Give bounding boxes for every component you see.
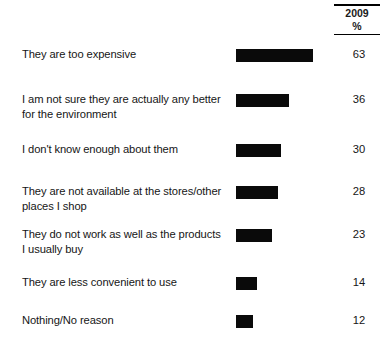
bar-row-value: 28 bbox=[340, 184, 378, 199]
bar-row-label-line1: Nothing/No reason bbox=[22, 313, 227, 328]
bar-track bbox=[236, 49, 340, 62]
table-row: They are not available at the stores/oth… bbox=[0, 184, 392, 227]
bar-row-label-line1: I am not sure they are actually any bett… bbox=[22, 92, 227, 107]
table-row: They are less convenient to use14 bbox=[0, 275, 392, 313]
bar-fill bbox=[236, 277, 257, 290]
bar-row-value: 23 bbox=[340, 227, 378, 242]
bar-fill bbox=[236, 94, 289, 107]
bar-track bbox=[236, 144, 340, 157]
bar-row-value: 12 bbox=[340, 313, 378, 328]
table-row: Nothing/No reason12 bbox=[0, 313, 392, 345]
table-row: I am not sure they are actually any bett… bbox=[0, 92, 392, 142]
bar-row-value: 30 bbox=[340, 142, 378, 157]
bar-row-label-line2: places I shop bbox=[22, 199, 227, 214]
bar-row-label: They do not work as well as the products… bbox=[22, 227, 227, 256]
header-bottom-rule bbox=[334, 34, 380, 35]
table-row: I don't know enough about them30 bbox=[0, 142, 392, 184]
table-row: They are too expensive63 bbox=[0, 47, 392, 92]
bar-row-label: They are not available at the stores/oth… bbox=[22, 184, 227, 213]
bar-row-value: 63 bbox=[340, 47, 378, 62]
bar-row-label-line2: I usually buy bbox=[22, 242, 227, 257]
bar-row-label: I am not sure they are actually any bett… bbox=[22, 92, 227, 121]
bar-row-label-line2: for the environment bbox=[22, 107, 227, 122]
bar-row-label-line1: I don't know enough about them bbox=[22, 142, 227, 157]
bar-track bbox=[236, 186, 340, 199]
bar-row-label: I don't know enough about them bbox=[22, 142, 227, 157]
bar-fill bbox=[236, 144, 281, 157]
bar-row-label-line1: They are not available at the stores/oth… bbox=[22, 184, 227, 199]
bar-fill bbox=[236, 186, 278, 199]
header-percent-label: % bbox=[334, 20, 380, 34]
bar-row-label: Nothing/No reason bbox=[22, 313, 227, 328]
header-year-label: 2009 bbox=[334, 6, 380, 20]
bar-fill bbox=[236, 49, 313, 62]
bar-row-label-line1: They are less convenient to use bbox=[22, 275, 227, 290]
value-column-header: 2009 % bbox=[334, 4, 380, 35]
table-row: They do not work as well as the products… bbox=[0, 227, 392, 275]
bar-track bbox=[236, 277, 340, 290]
bar-rows-container: They are too expensive63I am not sure th… bbox=[0, 47, 392, 345]
bar-row-label: They are too expensive bbox=[22, 47, 227, 62]
horizontal-bar-chart: 2009 % They are too expensive63I am not … bbox=[0, 0, 392, 345]
bar-track bbox=[236, 94, 340, 107]
bar-fill bbox=[236, 315, 253, 328]
bar-row-label: They are less convenient to use bbox=[22, 275, 227, 290]
bar-track bbox=[236, 315, 340, 328]
bar-row-value: 14 bbox=[340, 275, 378, 290]
bar-row-value: 36 bbox=[340, 92, 378, 107]
bar-fill bbox=[236, 229, 272, 242]
bar-row-label-line1: They are too expensive bbox=[22, 47, 227, 62]
bar-track bbox=[236, 229, 340, 242]
bar-row-label-line1: They do not work as well as the products bbox=[22, 227, 227, 242]
